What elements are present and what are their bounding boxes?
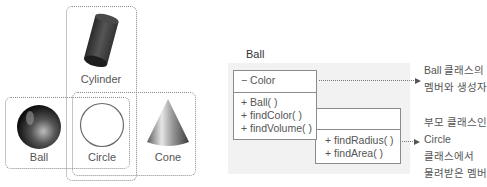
inherited-members-note-line: Circle: [424, 131, 487, 148]
circle-class-methods: + findRadius( ) + findArea( ): [316, 129, 400, 160]
cone-icon: [145, 98, 191, 150]
uml-title: Ball: [246, 48, 264, 60]
method-ball-constructor: + Ball( ): [241, 96, 316, 109]
ball-class-attributes: − Color: [234, 71, 316, 92]
own-members-arrow: [319, 80, 416, 81]
inherited-members-note-line: 클래스에서: [424, 148, 487, 165]
inherited-members-note-line: 부모 클래스인: [424, 114, 487, 131]
ball-label: Ball: [9, 151, 69, 163]
inherited-members-note: 부모 클래스인 Circle 클래스에서 물려받은 멤버: [424, 114, 487, 182]
ball-icon: [16, 104, 62, 150]
cylinder-icon: [80, 12, 122, 70]
cone-label: Cone: [138, 151, 198, 163]
circle-class-box: + findRadius( ) + findArea( ): [315, 108, 401, 164]
circle-label: Circle: [72, 151, 132, 163]
inherited-members-note-line: 물려받은 멤버: [424, 165, 487, 182]
attribute-color: − Color: [241, 74, 316, 87]
cylinder-label: Cylinder: [71, 73, 131, 85]
method-find-volume: + findVolume( ): [241, 122, 316, 135]
own-members-note-line: 멤버와 생성자: [424, 79, 487, 96]
ball-class-box: − Color + Ball( ) + findColor( ) + findV…: [233, 70, 317, 140]
method-find-color: + findColor( ): [241, 109, 316, 122]
own-members-note: Ball 클래스의 멤버와 생성자: [424, 62, 487, 96]
arrowhead-icon: [414, 139, 420, 145]
circle-icon: [79, 102, 125, 148]
method-find-area: + findArea( ): [325, 147, 400, 160]
arrowhead-icon: [415, 78, 421, 84]
method-find-radius: + findRadius( ): [325, 134, 400, 147]
circle-class-attributes: [316, 109, 400, 129]
ball-class-methods: + Ball( ) + findColor( ) + findVolume( ): [234, 92, 316, 135]
own-members-note-line: Ball 클래스의: [424, 62, 487, 79]
